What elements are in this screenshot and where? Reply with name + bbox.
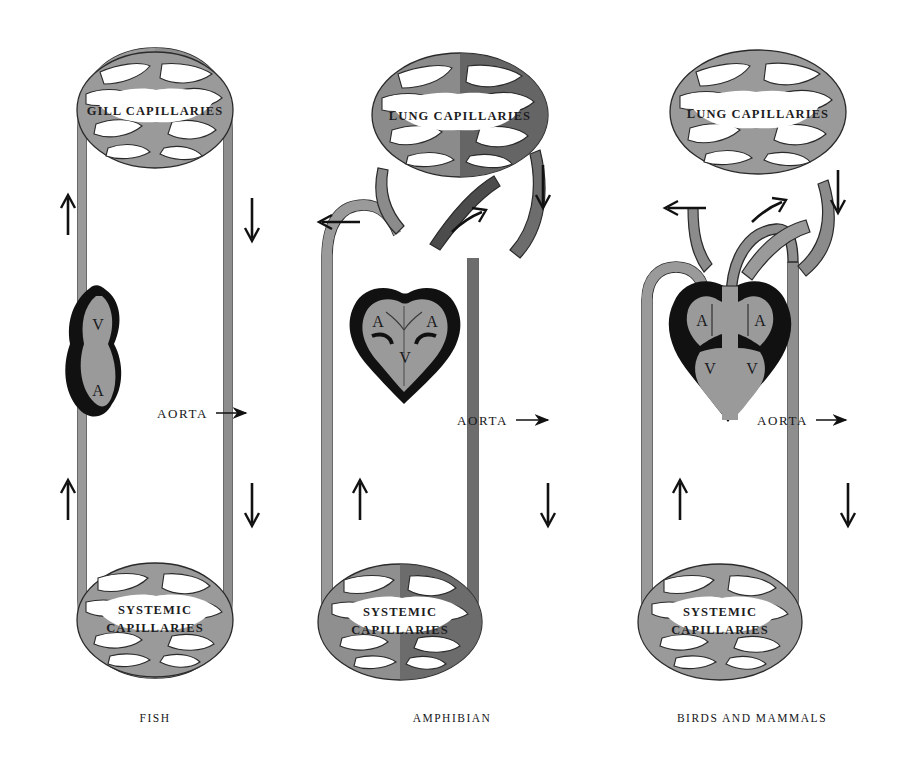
amphibian-systemic-capillaries: SYSTEMIC CAPILLARIES (318, 564, 482, 680)
mammal-left-atrium-label: A (696, 312, 708, 329)
panel-caption-fish: FISH (140, 712, 171, 724)
amphibian-aorta-label: AORTA (457, 413, 508, 428)
gill-capillaries-label: GILL CAPILLARIES (87, 104, 224, 118)
amphibian-lung-capillaries-label: LUNG CAPILLARIES (389, 109, 531, 123)
mammal-left-ventricle-label: V (704, 360, 716, 377)
fish-ventricle-label: V (92, 316, 104, 333)
amphibian-ventricle-label: V (399, 349, 411, 366)
mammal-systemic-label-line1: SYSTEMIC (683, 605, 757, 619)
fish-aorta-label: AORTA (157, 406, 208, 421)
fish-atrium-label: A (92, 382, 104, 399)
systemic-capillaries-label-line2: CAPILLARIES (106, 621, 204, 635)
systemic-capillaries-label-line1: SYSTEMIC (118, 603, 192, 617)
amphibian-systemic-label-line1: SYSTEMIC (363, 605, 437, 619)
mammal-lung-capillaries-label: LUNG CAPILLARIES (687, 107, 829, 121)
amphibian-lung-capillaries: LUNG CAPILLARIES (372, 53, 548, 177)
mammal-aorta-label: AORTA (757, 413, 808, 428)
mammal-lung-capillaries: LUNG CAPILLARIES (670, 50, 846, 174)
amphibian-right-atrium-label: A (426, 313, 438, 330)
amphibian-systemic-label-line2: CAPILLARIES (351, 623, 449, 637)
mammal-right-ventricle-label: V (746, 360, 758, 377)
mammal-systemic-capillaries: SYSTEMIC CAPILLARIES (638, 564, 802, 680)
amphibian-left-atrium-label: A (372, 313, 384, 330)
mammal-right-atrium-label: A (754, 312, 766, 329)
panel-caption-birds-and-mammals: BIRDS AND MAMMALS (677, 712, 827, 724)
panel-caption-amphibian: AMPHIBIAN (413, 712, 492, 724)
fish-systemic-capillaries: SYSTEMIC CAPILLARIES (77, 563, 233, 677)
mammal-systemic-label-line2: CAPILLARIES (671, 623, 769, 637)
circulatory-system-figure: GILL CAPILLARIES SYSTEMIC CAPILLARIES (0, 0, 907, 765)
fish-gill-capillaries: GILL CAPILLARIES (77, 52, 233, 168)
